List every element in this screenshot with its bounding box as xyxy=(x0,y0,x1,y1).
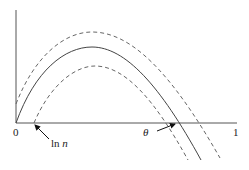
plot-svg: 0 1 ln n θ xyxy=(0,0,249,170)
diagram-canvas: 0 1 ln n θ xyxy=(0,0,249,170)
theta-arrow xyxy=(157,124,175,131)
ln-n-label: ln n xyxy=(51,137,68,149)
x-tick-label-1: 1 xyxy=(233,126,239,138)
x-tick-label-0: 0 xyxy=(13,126,19,138)
ln-n-label-var: n xyxy=(62,137,68,149)
ln-n-label-main: ln xyxy=(51,137,62,149)
theta-label: θ xyxy=(143,126,149,138)
ln-n-arrow xyxy=(35,125,49,139)
